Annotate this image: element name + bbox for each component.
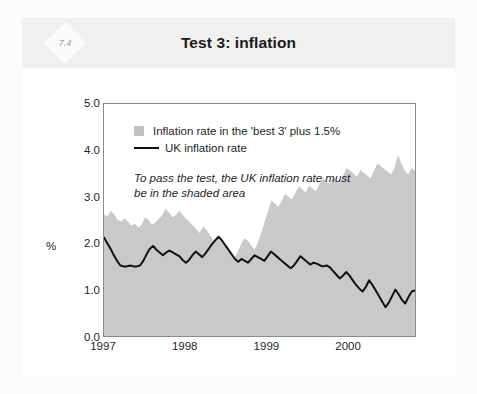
- x-tick-1998: 1998: [172, 340, 198, 352]
- chart-legend: Inflation rate in the 'best 3' plus 1.5%…: [134, 122, 340, 156]
- x-tick-2000: 2000: [335, 340, 361, 352]
- y-axis: 5.0 4.0 3.0 2.0 1.0 0.0: [62, 103, 100, 337]
- legend-label-shaded: Inflation rate in the 'best 3' plus 1.5%: [153, 125, 340, 137]
- chart-container: 5.0 4.0 3.0 2.0 1.0 0.0 % 1997 1998 1999…: [22, 68, 455, 375]
- chart-annotation: To pass the test, the UK inflation rate …: [134, 171, 359, 201]
- annotation-line-1: To pass the test, the UK inflation rate …: [134, 171, 359, 186]
- legend-label-uk: UK inflation rate: [165, 142, 247, 154]
- x-tick-1997: 1997: [90, 340, 116, 352]
- y-tick-1: 1.0: [68, 284, 100, 296]
- legend-swatch-icon: [134, 126, 144, 136]
- legend-line-icon: [134, 147, 159, 149]
- x-axis: 1997 1998 1999 2000: [103, 340, 416, 362]
- legend-item-uk: UK inflation rate: [134, 139, 340, 156]
- legend-item-shaded: Inflation rate in the 'best 3' plus 1.5%: [134, 122, 340, 139]
- y-axis-label: %: [46, 240, 56, 252]
- x-tick-1999: 1999: [254, 340, 280, 352]
- figure-card: 7.4 Test 3: inflation 5.0 4.0 3.0 2.0 1.…: [22, 18, 455, 375]
- y-tick-3: 3.0: [68, 191, 100, 203]
- y-tick-2: 2.0: [68, 237, 100, 249]
- page-title: Test 3: inflation: [22, 18, 455, 68]
- y-tick-5: 5.0: [68, 97, 100, 109]
- y-tick-4: 4.0: [68, 144, 100, 156]
- page-root: 7.4 Test 3: inflation 5.0 4.0 3.0 2.0 1.…: [0, 0, 477, 394]
- annotation-line-2: be in the shaded area: [134, 186, 359, 201]
